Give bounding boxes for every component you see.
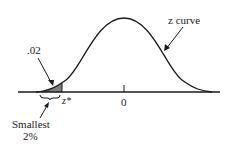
zero-label: 0 [121, 97, 127, 108]
brace-arrowhead [44, 102, 49, 108]
tail-brace [40, 95, 60, 100]
smallest-label: Smallest [12, 119, 50, 130]
curve-arrow [166, 27, 183, 49]
z-curve-label: z curve [168, 15, 200, 26]
z-star-label: z* [62, 95, 71, 106]
z-curve [36, 18, 212, 92]
area-arrowhead [48, 80, 54, 86]
area-value-label: .02 [27, 45, 41, 56]
percent-label: 2% [23, 131, 38, 142]
